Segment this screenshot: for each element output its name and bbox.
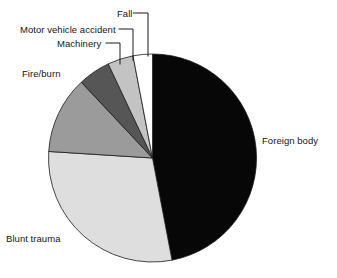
pie-slices [49, 54, 257, 262]
pie-label-fall: Fall [117, 8, 133, 19]
pie-slice-foreign-body[interactable] [153, 54, 257, 260]
leader-line-fall [134, 13, 149, 56]
pie-label-motor-vehicle-accident: Motor vehicle accident [20, 24, 116, 35]
pie-chart-figure: Foreign body Blunt trauma Fire/burn Moto… [0, 0, 337, 278]
pie-slice-blunt-trauma[interactable] [49, 151, 172, 262]
pie-label-fire-burn: Fire/burn [22, 68, 60, 79]
pie-label-blunt-trauma: Blunt trauma [6, 233, 60, 244]
leader-line-motor-vehicle-accident [119, 29, 133, 60]
pie-label-foreign-body: Foreign body [262, 135, 318, 146]
pie-label-machinery: Machinery [57, 38, 101, 49]
